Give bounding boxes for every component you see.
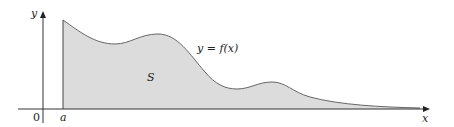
region-label: S [147,71,155,84]
x-axis-label: x [422,112,429,125]
curve-label: y = f(x) [196,42,238,55]
y-axis-label: y [30,7,38,20]
a-label: a [60,111,67,124]
area-under-curve-diagram: y x 0 a S y = f(x) [0,0,454,127]
origin-label: 0 [33,111,40,124]
y-axis-arrow-icon [40,11,46,18]
region-s [63,20,420,109]
